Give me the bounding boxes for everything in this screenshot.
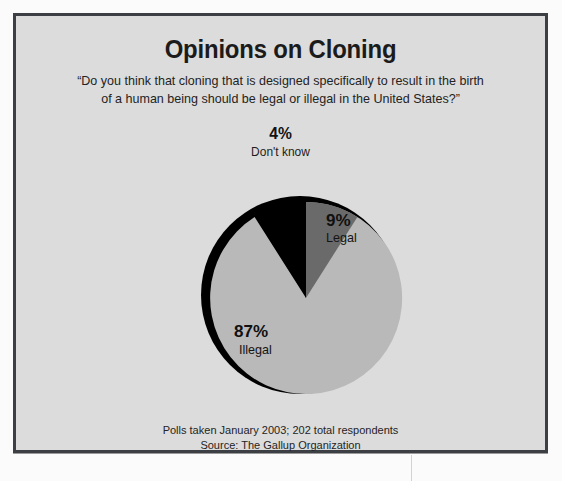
dont-know-percent: 4%: [37, 124, 524, 144]
scan-page: Opinions on Cloning “Do you think that c…: [0, 0, 562, 481]
poll-question: “Do you think that cloning that is desig…: [75, 72, 486, 108]
source-line-2: Source: The Gallup Organization: [29, 437, 532, 452]
dont-know-label: Don't know: [29, 144, 532, 160]
page-title: Opinions on Cloning: [37, 34, 524, 65]
pie-chart: 9% Legal 87% Illegal: [186, 176, 426, 421]
source-line-1: Polls taken January 2003; 202 total resp…: [29, 422, 532, 437]
pie-chart-svg: 9% Legal 87% Illegal: [186, 176, 426, 421]
source-note: Polls taken January 2003; 202 total resp…: [29, 422, 532, 452]
chart-panel: Opinions on Cloning “Do you think that c…: [13, 13, 548, 453]
dont-know-callout: 4% Don't know: [16, 124, 545, 160]
scan-artifact-line: [411, 455, 412, 481]
